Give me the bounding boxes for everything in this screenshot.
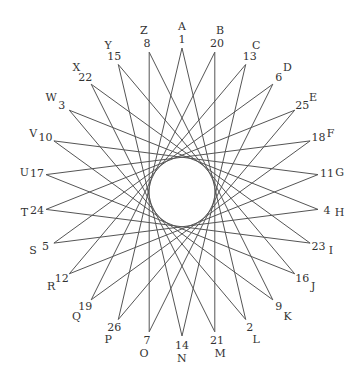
point-number-c: 13 (243, 51, 257, 62)
point-number-s: 5 (42, 241, 49, 252)
point-letter-f: F (327, 128, 335, 139)
point-letter-e: E (309, 92, 317, 103)
point-letter-b: B (216, 25, 224, 36)
point-letter-u: U (20, 167, 29, 178)
star-line (69, 110, 318, 209)
star-line (118, 48, 182, 320)
point-number-k: 9 (275, 301, 282, 312)
point-number-h: 4 (323, 205, 330, 216)
point-number-u: 17 (30, 168, 44, 179)
point-number-d: 6 (275, 72, 282, 83)
point-letter-p: P (105, 334, 112, 345)
star-line (46, 175, 295, 274)
point-letter-h: H (335, 207, 345, 218)
star-line (182, 48, 246, 320)
point-number-j: 16 (295, 273, 309, 284)
point-letter-a: A (178, 21, 186, 32)
point-letter-v: V (29, 128, 37, 139)
point-letter-j: J (311, 281, 315, 292)
point-number-p: 26 (107, 322, 121, 333)
point-number-y: 15 (107, 51, 121, 62)
point-letter-d: D (283, 62, 292, 73)
point-number-r: 12 (55, 273, 69, 284)
cipher-wheel-diagram: 1A20B13C6D25E18F11G4H23I16J9K2L21M14N7O2… (0, 0, 360, 383)
point-number-o: 7 (144, 335, 151, 346)
point-number-m: 21 (210, 335, 224, 346)
point-number-l: 2 (246, 322, 253, 333)
star-line (118, 65, 182, 337)
star-line (149, 52, 273, 300)
star-lines (0, 0, 360, 383)
star-line (91, 84, 215, 332)
point-letter-n: N (177, 353, 187, 364)
point-letter-l: L (252, 334, 259, 345)
point-number-a: 1 (179, 34, 186, 45)
point-number-x: 22 (78, 72, 92, 83)
point-letter-x: X (73, 62, 81, 73)
point-number-z: 8 (144, 38, 151, 49)
point-letter-s: S (29, 245, 37, 256)
point-letter-i: I (329, 245, 333, 256)
point-letter-o: O (139, 348, 148, 359)
point-letter-k: K (283, 311, 291, 322)
point-number-w: 3 (58, 100, 65, 111)
point-letter-t: T (21, 207, 28, 218)
point-number-t: 24 (30, 205, 44, 216)
point-letter-m: M (215, 348, 226, 359)
point-letter-z: Z (140, 25, 148, 36)
point-letter-y: Y (105, 40, 112, 51)
star-line (69, 65, 245, 274)
point-letter-c: C (252, 40, 260, 51)
point-number-f: 18 (312, 132, 326, 143)
point-number-b: 20 (210, 38, 224, 49)
star-line (91, 52, 215, 300)
point-letter-w: W (46, 92, 57, 103)
point-number-g: 11 (320, 168, 334, 179)
point-number-v: 10 (39, 132, 53, 143)
star-line (182, 65, 246, 337)
point-letter-r: R (47, 281, 55, 292)
point-number-i: 23 (312, 241, 326, 252)
star-line (69, 175, 318, 274)
star-line (118, 65, 294, 274)
point-number-n: 14 (175, 340, 189, 351)
point-number-e: 25 (295, 100, 309, 111)
star-line (46, 110, 295, 209)
star-line (149, 84, 273, 332)
point-letter-g: G (335, 167, 344, 178)
star-line (69, 110, 245, 319)
point-letter-q: Q (72, 311, 81, 322)
star-line (118, 110, 294, 319)
